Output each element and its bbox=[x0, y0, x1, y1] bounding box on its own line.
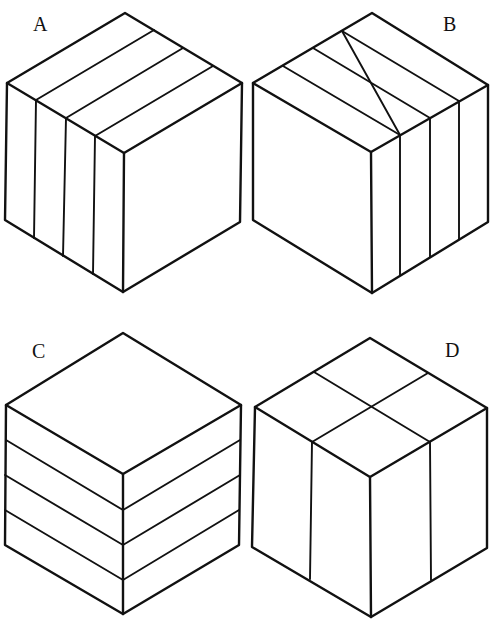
cube-diagram bbox=[0, 0, 490, 620]
cube-c bbox=[5, 333, 241, 614]
cube-b bbox=[253, 13, 488, 293]
cube-d bbox=[252, 338, 487, 617]
cube-a bbox=[5, 13, 242, 292]
